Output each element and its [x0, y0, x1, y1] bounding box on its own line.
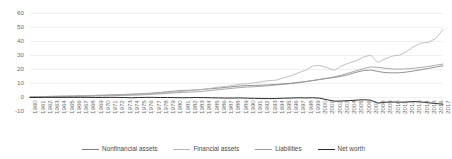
x-tick-label: 1968 — [90, 100, 96, 114]
x-tick-label: 1960 — [32, 100, 38, 114]
x-tick-label: 1972 — [119, 100, 125, 114]
x-tick-label: 1988 — [235, 100, 241, 114]
y-tick-label: 0 — [2, 94, 24, 100]
x-tick-label: 2010 — [395, 100, 401, 114]
legend-item[interactable]: Financial assets — [173, 146, 239, 152]
legend-line-icon — [255, 149, 272, 150]
legend-label: Net worth — [338, 146, 365, 152]
x-tick-label: 1989 — [243, 100, 249, 114]
x-tick-label: 1980 — [177, 100, 183, 114]
legend-label: Liabilities — [275, 146, 301, 152]
x-tick-label: 2014 — [424, 100, 430, 114]
legend-line-icon — [318, 149, 335, 150]
x-tick-label: 1961 — [40, 100, 46, 114]
x-tick-label: 2009 — [387, 100, 393, 114]
y-tick-label: 20 — [2, 66, 24, 72]
legend-line-icon — [82, 149, 99, 150]
x-tick-label: 2006 — [366, 100, 372, 114]
x-tick-label: 1985 — [214, 100, 220, 114]
x-tick-label: 1981 — [185, 100, 191, 114]
legend-item[interactable]: Liabilities — [255, 146, 301, 152]
legend-line-icon — [173, 149, 190, 150]
x-tick-label: 2005 — [358, 100, 364, 114]
series-line — [30, 66, 443, 97]
x-tick-label: 1969 — [98, 100, 104, 114]
x-tick-label: 1965 — [69, 100, 75, 114]
chart-legend: Nonfinancial assetsFinancial assetsLiabi… — [0, 139, 447, 159]
series-line — [30, 64, 443, 97]
legend-item[interactable]: Nonfinancial assets — [82, 146, 157, 152]
x-tick-label: 1992 — [264, 100, 270, 114]
x-tick-label: 2002 — [337, 100, 343, 114]
y-tick-label: 10 — [2, 80, 24, 86]
y-tick-label: 30 — [2, 52, 24, 58]
x-tick-label: 1993 — [272, 100, 278, 114]
y-tick-label: -10 — [2, 108, 24, 114]
x-tick-label: 1976 — [148, 100, 154, 114]
legend-item[interactable]: Net worth — [318, 146, 365, 152]
x-tick-label: 1964 — [61, 100, 67, 114]
y-tick-label: 40 — [2, 38, 24, 44]
y-tick-label: 50 — [2, 24, 24, 30]
x-tick-label: 1973 — [127, 100, 133, 114]
x-tick-label: 2001 — [329, 100, 335, 114]
x-tick-label: 1997 — [300, 100, 306, 114]
x-tick-label: 1977 — [156, 100, 162, 114]
legend-label: Financial assets — [193, 146, 239, 152]
x-tick-label: 1984 — [206, 100, 212, 114]
x-tick-label: 2013 — [416, 100, 422, 114]
y-tick-label: 60 — [2, 10, 24, 16]
legend-label: Nonfinancial assets — [102, 146, 157, 152]
x-tick-label: 2017 — [445, 100, 451, 114]
x-tick-label: 1998 — [308, 100, 314, 114]
